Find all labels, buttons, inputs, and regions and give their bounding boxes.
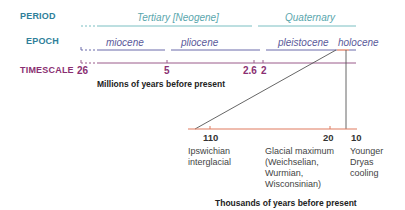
- period-quaternary: Quaternary: [285, 12, 335, 23]
- detail-tick-110: 110: [203, 132, 218, 143]
- tick-2-6: 2.6: [243, 65, 257, 76]
- tick-26: 26: [77, 65, 88, 76]
- epoch-row-label: EPOCH: [26, 36, 59, 46]
- period-tertiary: Tertiary [Neogene]: [137, 12, 219, 23]
- tick-2: 2: [261, 65, 267, 76]
- epoch-miocene: miocene: [106, 37, 144, 48]
- timescale-row-label: TIMESCALE: [20, 65, 74, 75]
- detail-tick-10: 10: [351, 132, 362, 143]
- period-row-label: PERIOD: [20, 11, 56, 21]
- event-glacial-maximum: Glacial maximum (Weichselian, Wurmian, W…: [265, 146, 345, 190]
- timescale-axis-title: Millions of years before present: [97, 79, 225, 89]
- event-ipswichian: Ipswichian interglacial: [188, 146, 248, 168]
- epoch-holocene: holocene: [338, 37, 379, 48]
- event-younger-dryas: Younger Dryas cooling: [350, 146, 400, 179]
- epoch-pleistocene: pleistocene: [278, 37, 329, 48]
- detail-axis-title: Thousands of years before present: [215, 198, 357, 208]
- tick-5: 5: [164, 65, 170, 76]
- epoch-pliocene: pliocene: [181, 37, 218, 48]
- detail-tick-20: 20: [323, 132, 334, 143]
